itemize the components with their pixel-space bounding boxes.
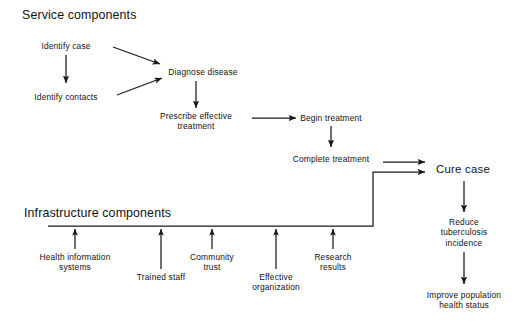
connector-identify-contacts-to-diagnose — [117, 78, 162, 95]
node-research-results: Research results — [298, 252, 368, 273]
node-effective-organization: Effective organization — [235, 272, 317, 293]
node-diagnose-disease: Diagnose disease — [151, 67, 255, 77]
node-health-information-systems: Health information systems — [23, 252, 127, 273]
node-improve-population-health-status: Improve population health status — [411, 290, 517, 311]
node-cure-case: Cure case — [423, 163, 503, 176]
node-trained-staff: Trained staff — [121, 272, 201, 282]
node-begin-treatment: Begin treatment — [283, 113, 379, 123]
node-prescribe-effective-treatment: Prescribe effective treatment — [144, 111, 248, 132]
heading-infrastructure-components: Infrastructure components — [24, 206, 171, 220]
node-community-trust: Community trust — [176, 252, 248, 273]
node-complete-treatment: Complete treatment — [276, 154, 386, 164]
node-identify-case: Identify case — [24, 41, 108, 51]
heading-service-components: Service components — [22, 8, 137, 22]
node-identify-contacts: Identify contacts — [18, 92, 114, 102]
connector-identify-case-to-diagnose — [113, 47, 160, 64]
node-reduce-tuberculosis-incidence: Reduce tuberculosis incidence — [423, 217, 505, 248]
